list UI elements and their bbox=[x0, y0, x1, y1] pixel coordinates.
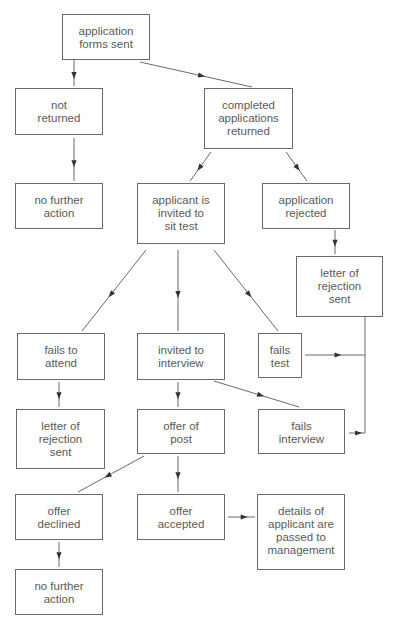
arrowhead-icon bbox=[56, 392, 61, 399]
node-offer-accepted: offer accepted bbox=[137, 494, 225, 540]
arrowhead-icon bbox=[355, 430, 362, 435]
arrowhead-icon bbox=[71, 160, 76, 167]
edge-forms-sent-to-completed-returned bbox=[140, 62, 252, 87]
arrowhead-icon bbox=[197, 164, 203, 171]
node-completed-returned: completed applications returned bbox=[204, 88, 293, 149]
arrowhead-icon bbox=[241, 514, 248, 519]
flowchart-canvas: application forms sentnot returnedcomple… bbox=[0, 0, 398, 625]
edge-invited-sit-test-to-fails-to-attend bbox=[82, 250, 146, 331]
arrowhead-icon bbox=[109, 290, 115, 297]
edge-invited-interview-to-fails-interview bbox=[214, 381, 299, 407]
edge-invited-sit-test-to-fails-test bbox=[214, 250, 278, 331]
node-forms-sent: application forms sent bbox=[62, 14, 150, 60]
arrowhead-icon bbox=[71, 72, 76, 79]
arrowhead-icon bbox=[56, 552, 61, 559]
node-rejection-letter-left: letter of rejection sent bbox=[16, 409, 105, 469]
node-application-rejected: application rejected bbox=[262, 183, 350, 229]
node-not-returned: not returned bbox=[15, 88, 103, 135]
node-fails-interview: fails interview bbox=[258, 409, 345, 454]
node-fails-test: fails test bbox=[258, 333, 302, 378]
arrowhead-icon bbox=[105, 472, 112, 478]
node-offer-declined: offer declined bbox=[15, 494, 103, 540]
arrowhead-icon bbox=[175, 392, 180, 399]
node-offer-of-post: offer of post bbox=[137, 409, 225, 454]
node-no-further-action-2: no further action bbox=[15, 569, 103, 615]
node-invited-sit-test: applicant is invited to sit test bbox=[137, 183, 225, 244]
arrowhead-icon bbox=[293, 164, 299, 171]
node-invited-interview: invited to interview bbox=[137, 333, 225, 380]
node-rejection-letter-right: letter of rejection sent bbox=[296, 256, 383, 317]
arrowhead-icon bbox=[175, 472, 180, 479]
arrowhead-icon bbox=[245, 290, 251, 297]
arrowhead-icon bbox=[257, 392, 264, 397]
node-no-further-action-1: no further action bbox=[15, 183, 103, 229]
arrowhead-icon bbox=[335, 352, 342, 357]
node-fails-to-attend: fails to attend bbox=[17, 333, 105, 380]
node-passed-to-management: details of applicant are passed to manag… bbox=[257, 494, 345, 570]
arrowhead-icon bbox=[175, 291, 180, 298]
arrowhead-icon bbox=[332, 240, 337, 247]
